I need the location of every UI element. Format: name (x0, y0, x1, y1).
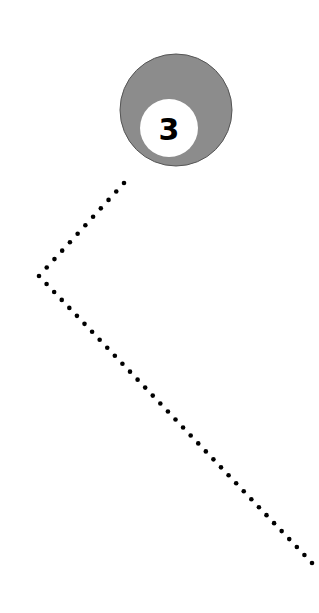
trajectory-dot (75, 314, 80, 319)
trajectory-dot (114, 189, 119, 194)
trajectory-dot (59, 298, 64, 303)
trajectory-dot (234, 481, 239, 486)
trajectory-dot (90, 330, 95, 335)
ball-number-label: 3 (159, 112, 180, 147)
trajectory-dot (287, 537, 292, 542)
trajectory-dot (249, 497, 254, 502)
trajectory-dot (295, 545, 300, 550)
trajectory-dot (310, 561, 315, 566)
trajectory-dot (128, 369, 133, 374)
game-canvas[interactable]: 3 (0, 0, 319, 613)
trajectory-dot (75, 231, 80, 236)
trajectory-dot (196, 441, 201, 446)
trajectory-dot (143, 385, 148, 390)
trajectory-dot (173, 417, 178, 422)
trajectory-dot (97, 337, 102, 342)
trajectory-dot (264, 513, 269, 518)
trajectory-dot (82, 322, 87, 327)
trajectory-dot (166, 409, 171, 414)
trajectory-dot (99, 206, 104, 211)
trajectory-dot (211, 457, 216, 462)
trajectory-dot (150, 393, 155, 398)
trajectory-dot (44, 282, 49, 287)
trajectory-dot (219, 465, 224, 470)
trajectory-dot (105, 345, 110, 350)
trajectory-dot (52, 290, 57, 295)
trajectory-dot (302, 553, 307, 558)
trajectory-dot (204, 449, 209, 454)
trajectory-dot (52, 257, 57, 262)
pool-ball-3[interactable]: 3 (120, 54, 232, 166)
trajectory-dot (113, 353, 118, 358)
trajectory-dot (68, 240, 73, 245)
trajectory-dot (44, 265, 49, 270)
trajectory-dot (83, 223, 88, 228)
aim-trajectory-path (37, 181, 315, 566)
trajectory-dot (91, 215, 96, 220)
trajectory-dot (106, 198, 111, 203)
trajectory-dot (37, 274, 42, 279)
trajectory-dot (135, 377, 140, 382)
trajectory-dot (241, 489, 246, 494)
trajectory-dot (226, 473, 231, 478)
trajectory-dot (279, 529, 284, 534)
trajectory-dot (60, 248, 65, 253)
trajectory-dot (120, 361, 125, 366)
trajectory-dot (67, 306, 72, 311)
trajectory-dot (257, 505, 262, 510)
trajectory-dot (122, 181, 127, 186)
trajectory-dot (181, 425, 186, 430)
trajectory-dot (188, 433, 193, 438)
trajectory-dot (272, 521, 277, 526)
trajectory-dot (158, 401, 163, 406)
